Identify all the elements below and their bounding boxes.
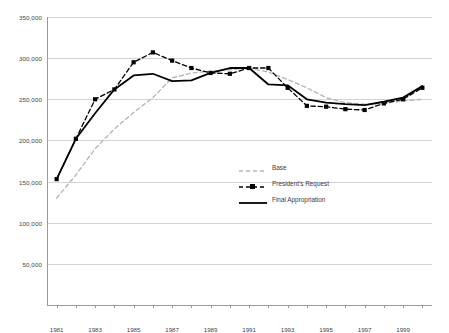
x-axis-tick xyxy=(345,305,346,308)
data-point-marker xyxy=(93,97,97,101)
legend-label: Base xyxy=(272,164,287,171)
x-axis-tick-label: 1991 xyxy=(242,326,256,333)
legend-swatch-icon xyxy=(239,194,267,204)
y-axis-tick-label: 150,000 xyxy=(0,178,42,185)
legend-label: Final Appropriation xyxy=(272,196,325,203)
data-point-marker xyxy=(189,66,193,70)
legend-item: President's Request xyxy=(239,175,329,191)
x-axis-tick-label: 1987 xyxy=(165,326,179,333)
data-point-marker xyxy=(363,108,367,112)
x-axis-tick-label: 1989 xyxy=(204,326,218,333)
x-axis-tick xyxy=(288,305,289,308)
x-axis-tick xyxy=(384,305,385,308)
data-point-marker xyxy=(151,50,155,54)
x-axis-tick xyxy=(326,305,327,308)
x-axis-tick xyxy=(403,305,404,308)
x-axis-line xyxy=(47,305,432,306)
x-axis-tick xyxy=(153,305,154,308)
legend-item: Final Appropriation xyxy=(239,191,329,207)
data-point-marker xyxy=(305,104,309,108)
data-point-marker xyxy=(132,60,136,64)
y-axis-tick-label: 200,000 xyxy=(0,137,42,144)
x-axis-tick xyxy=(268,305,269,308)
legend-item: Base xyxy=(239,159,329,175)
x-axis-tick-label: 1999 xyxy=(396,326,410,333)
x-axis-tick xyxy=(230,305,231,308)
x-axis-tick-label: 1993 xyxy=(281,326,295,333)
x-axis-tick xyxy=(95,305,96,308)
x-axis-tick xyxy=(114,305,115,308)
legend-label: President's Request xyxy=(272,180,329,187)
x-axis-tick xyxy=(172,305,173,308)
x-axis-tick xyxy=(134,305,135,308)
x-axis-tick xyxy=(191,305,192,308)
x-axis-tick xyxy=(57,305,58,308)
y-axis-tick-label: 100,000 xyxy=(0,219,42,226)
x-axis-tick xyxy=(365,305,366,308)
chart-container: 50,000100,000150,000200,000250,000300,00… xyxy=(0,0,449,333)
x-axis-tick-label: 1983 xyxy=(88,326,102,333)
x-axis-tick-label: 1981 xyxy=(50,326,64,333)
y-axis-tick-label: 350,000 xyxy=(0,14,42,21)
data-point-marker xyxy=(170,59,174,63)
data-point-marker xyxy=(343,107,347,111)
x-axis-tick-label: 1985 xyxy=(127,326,141,333)
data-point-marker xyxy=(266,66,270,70)
plot-area: 50,000100,000150,000200,000250,000300,00… xyxy=(47,17,432,305)
data-point-marker xyxy=(228,72,232,76)
x-axis-tick xyxy=(211,305,212,308)
legend-swatch-icon xyxy=(239,162,267,172)
chart-legend: BasePresident's RequestFinal Appropriati… xyxy=(239,159,329,207)
y-axis-tick-label: 250,000 xyxy=(0,96,42,103)
x-axis-tick xyxy=(307,305,308,308)
x-axis-tick-label: 1997 xyxy=(358,326,372,333)
x-axis-tick xyxy=(249,305,250,308)
y-axis-tick-label: 300,000 xyxy=(0,55,42,62)
legend-swatch-icon xyxy=(239,178,267,188)
x-axis-tick xyxy=(76,305,77,308)
x-axis-tick-label: 1995 xyxy=(319,326,333,333)
y-axis-tick-label: 50,000 xyxy=(0,260,42,267)
x-axis-tick xyxy=(422,305,423,308)
data-point-marker xyxy=(324,105,328,109)
